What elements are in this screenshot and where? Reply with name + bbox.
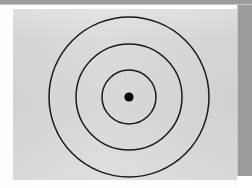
scan-edge-right xyxy=(238,0,252,176)
scan-edge-right-highlight xyxy=(237,4,238,176)
scan-frame: Three concentric circles with a filled d… xyxy=(0,0,252,188)
scan-edge-top-highlight xyxy=(0,4,252,5)
figure-panel xyxy=(13,9,237,180)
center-dot xyxy=(124,92,133,101)
concentric-circles-diagram xyxy=(13,9,237,180)
